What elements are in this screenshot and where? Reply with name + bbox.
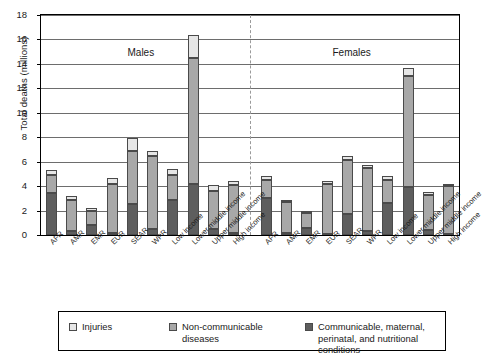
segment-injuries: [188, 35, 199, 58]
y-tick-label: 8: [0, 131, 27, 142]
y-tick-label: 14: [0, 57, 27, 68]
y-tick-label: 12: [0, 82, 27, 93]
segment-noncommunicable: [362, 168, 373, 232]
bar-females-wpr: [362, 165, 373, 235]
segment-injuries: [342, 156, 353, 161]
segment-injuries: [86, 208, 97, 210]
y-tick-label: 4: [0, 180, 27, 191]
segment-injuries: [46, 170, 57, 175]
bar-females-low-income: [382, 176, 393, 235]
bar-males-eur: [107, 178, 118, 235]
segment-noncommunicable: [382, 180, 393, 203]
segment-noncommunicable: [301, 213, 312, 228]
segment-communicable: [127, 204, 138, 235]
segment-injuries: [281, 200, 292, 202]
segment-noncommunicable: [188, 58, 199, 184]
segment-injuries: [107, 178, 118, 184]
segment-injuries: [228, 181, 239, 185]
y-tick-mark: [37, 235, 41, 236]
panel-label-males: Males: [128, 47, 155, 58]
segment-injuries: [208, 185, 219, 191]
segment-injuries: [443, 184, 454, 186]
bar-males-emr: [86, 208, 97, 235]
segment-noncommunicable: [46, 175, 57, 193]
segment-injuries: [127, 138, 138, 150]
y-tick-label: 2: [0, 204, 27, 215]
segment-noncommunicable: [127, 151, 138, 205]
segment-noncommunicable: [66, 200, 77, 232]
bar-males-wpr: [147, 151, 158, 235]
segment-injuries: [322, 181, 333, 183]
legend-label-communicable: Communicable, maternal, perinatal, and n…: [318, 321, 440, 356]
segment-noncommunicable: [322, 184, 333, 234]
y-tick-label: 0: [0, 229, 27, 240]
segment-injuries: [167, 169, 178, 175]
bar-females-eur: [322, 181, 333, 235]
segment-noncommunicable: [403, 76, 414, 187]
panel-label-females: Females: [333, 47, 371, 58]
legend-item-noncommunicable: Non-communicable diseases: [169, 321, 299, 344]
bar-females-lower-middle-income: [403, 68, 414, 235]
segment-noncommunicable: [107, 184, 118, 233]
y-tick-label: 18: [0, 9, 27, 20]
segment-injuries: [147, 151, 158, 156]
segment-noncommunicable: [342, 160, 353, 214]
bar-males-lower-middle-income: [188, 35, 199, 235]
y-tick-label: 16: [0, 33, 27, 44]
segment-communicable: [382, 203, 393, 235]
legend-item-injuries: Injuries: [69, 321, 112, 333]
bar-females-amr: [281, 200, 292, 235]
bar-males-sear: [127, 138, 138, 235]
segment-injuries: [261, 176, 272, 180]
legend-label-injuries: Injuries: [82, 321, 112, 333]
segment-noncommunicable: [86, 211, 97, 226]
segment-injuries: [362, 165, 373, 167]
segment-noncommunicable: [167, 175, 178, 199]
segment-injuries: [403, 68, 414, 77]
legend-item-communicable: Communicable, maternal, perinatal, and n…: [305, 321, 443, 356]
bar-males-afr: [46, 170, 57, 235]
segment-injuries: [301, 211, 312, 213]
communicable-swatch: [305, 323, 313, 331]
noncommunicable-swatch: [169, 323, 177, 331]
segment-noncommunicable: [281, 202, 292, 233]
bar-females-afr: [261, 176, 272, 235]
segment-injuries: [382, 176, 393, 180]
x-axis-labels: AFRAMREMREURSEARWPRLow incomeLower middl…: [40, 238, 460, 302]
segment-communicable: [46, 193, 57, 235]
bar-females-sear: [342, 156, 353, 235]
bar-males-low-income: [167, 169, 178, 235]
legend-label-noncommunicable: Non-communicable diseases: [182, 321, 294, 344]
segment-communicable: [167, 200, 178, 235]
injuries-swatch: [69, 323, 77, 331]
y-tick-label: 6: [0, 155, 27, 166]
segment-noncommunicable: [147, 156, 158, 229]
bar-males-amr: [66, 196, 77, 235]
y-tick-label: 10: [0, 106, 27, 117]
chart-legend: Injuries Non-communicable diseases Commu…: [58, 311, 446, 351]
segment-injuries: [66, 196, 77, 200]
segment-injuries: [423, 192, 434, 194]
